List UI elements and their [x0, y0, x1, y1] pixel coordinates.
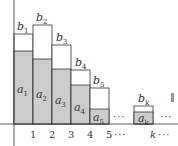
- label-a4: a4: [74, 102, 85, 116]
- ellipsis-row-end: ···: [160, 112, 173, 122]
- label-b3: b3: [56, 32, 68, 46]
- label-a2: a2: [36, 89, 47, 103]
- label-bk: bk: [138, 93, 149, 107]
- tick-k: k: [150, 130, 156, 140]
- label-a3: a3: [55, 95, 66, 109]
- tick-2: 2: [49, 130, 55, 140]
- label-a5: a5: [93, 112, 104, 126]
- tick-5: 5: [106, 130, 112, 140]
- ellipsis-axis: ···: [114, 130, 127, 140]
- side-mark: [171, 93, 174, 102]
- label-ak: ak: [138, 113, 149, 127]
- label-a1: a1: [17, 84, 28, 98]
- tick-3: 3: [68, 130, 74, 140]
- label-b1: b1: [17, 21, 29, 35]
- label-b2: b2: [36, 12, 48, 26]
- ellipsis-axis-end: ···: [158, 130, 171, 140]
- label-b4: b4: [75, 57, 87, 71]
- tick-4: 4: [87, 130, 93, 140]
- label-b5: b5: [93, 75, 105, 89]
- tick-1: 1: [30, 130, 36, 140]
- ellipsis-row: ···: [113, 112, 126, 122]
